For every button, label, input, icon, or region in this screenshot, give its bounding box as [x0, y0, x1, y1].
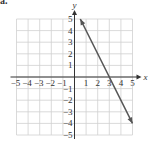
x-tick-label: 2: [95, 78, 100, 88]
x-tick-label: −4: [22, 78, 32, 88]
x-tick-label: 5: [130, 78, 135, 88]
x-tick-label: 4: [119, 78, 124, 88]
coordinate-plane: xy−5−4−3−2−112345−5−4−3−2−112345: [0, 0, 148, 144]
axes: [11, 10, 142, 139]
y-tick-label: −4: [63, 118, 73, 128]
x-axis-label: x: [143, 72, 148, 82]
tick-labels: xy−5−4−3−2−112345−5−4−3−2−112345: [11, 0, 148, 140]
y-tick-label: 1: [68, 60, 73, 70]
y-tick-label: 2: [68, 49, 73, 59]
y-tick-label: −1: [63, 84, 73, 94]
y-tick-label: −2: [63, 95, 73, 105]
x-tick-label: −5: [11, 78, 21, 88]
x-tick-label: −3: [34, 78, 44, 88]
data-line: [80, 19, 132, 123]
y-axis-arrow-icon: [72, 10, 77, 15]
y-tick-label: 3: [68, 37, 73, 47]
y-tick-label: 5: [68, 14, 73, 24]
x-tick-label: 1: [84, 78, 89, 88]
y-tick-label: −5: [63, 130, 73, 140]
y-tick-label: −3: [63, 107, 73, 117]
x-tick-label: −2: [46, 78, 56, 88]
y-axis-label: y: [72, 0, 77, 10]
y-tick-label: 4: [68, 26, 73, 36]
x-axis-arrow-icon: [137, 75, 142, 80]
plotted-line: [80, 19, 132, 123]
